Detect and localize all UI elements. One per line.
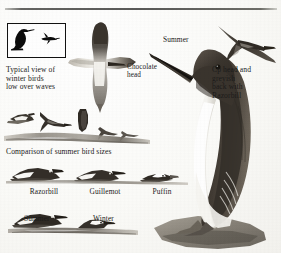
size-comparison-figures	[6, 163, 188, 188]
flock-bird-1	[7, 113, 35, 124]
flying-auk-silhouette	[42, 33, 60, 45]
right-side-note: Cp head and greyish back with Razorbill	[212, 66, 280, 100]
chocolate-head-caption: Chocolate head	[127, 63, 173, 79]
top-rule	[5, 8, 277, 10]
species-label-puffin: Puffin	[138, 188, 186, 196]
razorbill-in-flight	[214, 22, 278, 66]
species-label-razorbill: Razorbill	[14, 188, 74, 196]
seasonal-label-summer: Summer	[24, 215, 50, 223]
seasonal-plumage-figures	[8, 206, 138, 242]
chocolate-head-line-1: Chocolate	[127, 63, 173, 71]
plate-page: Typical view of winter birds low over wa…	[0, 0, 281, 253]
flight-head	[264, 46, 276, 50]
silhouette-figures	[8, 24, 62, 54]
summer-caption-main: Summer	[163, 36, 189, 44]
chocolate-head-line-2: head	[127, 71, 173, 79]
winter-auks-low-over-waves	[4, 105, 150, 145]
seasonal-label-winter: Winter	[93, 215, 114, 223]
typical-view-caption: Typical view of winter birds low over wa…	[6, 66, 86, 92]
winter-silhouette-inset	[7, 23, 66, 58]
typical-view-line-3: low over waves	[6, 83, 86, 92]
right-note-line-4: Razorbill	[212, 92, 280, 101]
comparison-heading: Comparison of summer bird sizes	[6, 148, 166, 157]
standing-auk-bill	[28, 29, 35, 31]
razorbill-figure	[10, 168, 64, 182]
standing-auk-silhouette	[12, 29, 29, 50]
flock-bird-2	[40, 112, 72, 132]
flock-bird-3	[78, 109, 88, 132]
species-label-guillemot: Guillemot	[73, 188, 137, 196]
puffin-figure	[140, 174, 179, 182]
